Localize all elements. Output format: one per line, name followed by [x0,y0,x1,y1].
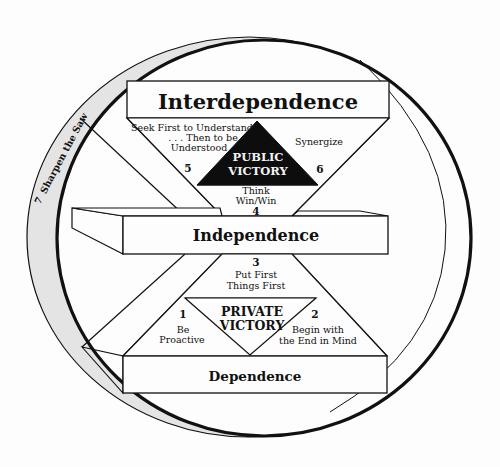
interdependence-label: Interdependence [158,89,358,114]
habit-5-number: 5 [184,162,191,174]
habit-5-line3: Understood [171,142,228,153]
interdependence-level: Interdependence [127,81,389,118]
habit-3-line2: Things First [227,280,286,291]
habit-2-number: 2 [311,308,318,320]
habit-3-number: 3 [252,256,259,268]
seven-habits-diagram: Interdependence PUBLIC VICTORY Seek Firs… [0,0,500,467]
public-victory-line2: VICTORY [227,164,288,178]
private-victory-line1: PRIVATE [221,304,283,319]
habit-3-line1: Put First [235,269,277,280]
habit-6-line1: Synergize [295,136,343,147]
dependence-label: Dependence [209,368,302,384]
private-victory-line2: VICTORY [219,318,286,333]
public-victory-line1: PUBLIC [232,150,283,164]
independence-label: Independence [193,226,319,245]
habit-2-line1: Begin with [292,324,344,335]
habit-6-number: 6 [316,163,323,175]
habit-1-number: 1 [179,308,186,320]
habit-4-number: 4 [252,205,259,217]
habit-1-line2: Proactive [159,334,205,345]
habit-2-line2: the End in Mind [279,335,357,346]
